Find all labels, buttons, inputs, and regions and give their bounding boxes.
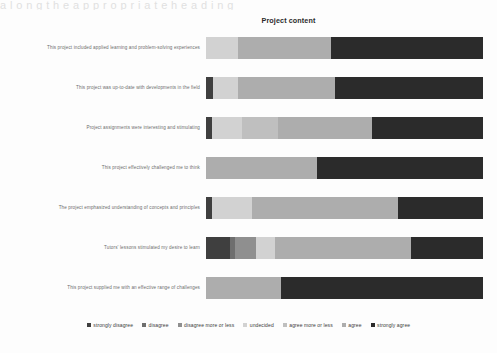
legend-swatch-icon bbox=[142, 323, 146, 327]
chart-row: This project effectively challenged me t… bbox=[0, 156, 497, 180]
bar-segment[interactable] bbox=[213, 77, 238, 99]
bar-segment[interactable] bbox=[256, 237, 275, 259]
chart-row: This project included applied learning a… bbox=[0, 36, 497, 60]
row-label: This project supplied me with an effecti… bbox=[0, 285, 206, 291]
legend-item[interactable]: strongly disagree bbox=[87, 322, 133, 328]
cropped-header-artifact: a l o n g t h e a p p r o p r i a t e h … bbox=[0, 0, 497, 10]
chart-row: Project assignments were interesting and… bbox=[0, 116, 497, 140]
chart-title: Project content bbox=[0, 16, 497, 25]
bar-segment[interactable] bbox=[206, 277, 281, 299]
legend-label: strongly agree bbox=[377, 322, 410, 328]
bar-segment[interactable] bbox=[212, 197, 252, 219]
row-label: This project was up-to-date with develop… bbox=[0, 85, 206, 91]
legend-item[interactable]: agree bbox=[342, 322, 362, 328]
chart-row: Tutors' lessons stimulated my desire to … bbox=[0, 236, 497, 260]
row-label: Tutors' lessons stimulated my desire to … bbox=[0, 245, 206, 251]
stacked-bar[interactable] bbox=[206, 77, 483, 99]
bar-segment[interactable] bbox=[335, 77, 483, 99]
legend-label: disagree more or less bbox=[184, 322, 234, 328]
legend-swatch-icon bbox=[178, 323, 182, 327]
legend-label: disagree bbox=[149, 322, 169, 328]
legend-label: agree bbox=[348, 322, 361, 328]
legend-item[interactable]: undecided bbox=[243, 322, 273, 328]
legend-swatch-icon bbox=[243, 323, 247, 327]
legend-item[interactable]: disagree bbox=[142, 322, 168, 328]
legend-swatch-icon bbox=[371, 323, 375, 327]
legend-swatch-icon bbox=[87, 323, 91, 327]
bar-segment[interactable] bbox=[372, 117, 483, 139]
plot-area: This project included applied learning a… bbox=[0, 34, 497, 314]
legend-swatch-icon bbox=[283, 323, 287, 327]
bar-segment[interactable] bbox=[242, 117, 278, 139]
stacked-bar[interactable] bbox=[206, 237, 483, 259]
legend-label: agree more or less bbox=[289, 322, 333, 328]
legend-item[interactable]: disagree more or less bbox=[178, 322, 235, 328]
bar-segment[interactable] bbox=[281, 277, 483, 299]
row-label: This project effectively challenged me t… bbox=[0, 165, 206, 171]
bar-segment[interactable] bbox=[238, 37, 331, 59]
stacked-bar[interactable] bbox=[206, 157, 483, 179]
bar-segment[interactable] bbox=[317, 157, 483, 179]
legend-label: undecided bbox=[250, 322, 274, 328]
bar-segment[interactable] bbox=[278, 117, 372, 139]
stacked-bar[interactable] bbox=[206, 277, 483, 299]
legend-item[interactable]: agree more or less bbox=[283, 322, 333, 328]
stacked-bar[interactable] bbox=[206, 37, 483, 59]
row-label: Project assignments were interesting and… bbox=[0, 125, 206, 131]
legend-swatch-icon bbox=[342, 323, 346, 327]
chart-legend: strongly disagreedisagreedisagree more o… bbox=[0, 322, 497, 328]
bar-segment[interactable] bbox=[206, 157, 317, 179]
legend-item[interactable]: strongly agree bbox=[371, 322, 411, 328]
stacked-bar[interactable] bbox=[206, 117, 483, 139]
chart-row: This project supplied me with an effecti… bbox=[0, 276, 497, 300]
bar-segment[interactable] bbox=[252, 197, 399, 219]
chart-row: This project was up-to-date with develop… bbox=[0, 76, 497, 100]
bar-segment[interactable] bbox=[206, 77, 213, 99]
bar-segment[interactable] bbox=[235, 237, 256, 259]
bar-segment[interactable] bbox=[212, 117, 242, 139]
bar-segment[interactable] bbox=[331, 37, 483, 59]
bar-segment[interactable] bbox=[206, 37, 238, 59]
bar-segment[interactable] bbox=[398, 197, 482, 219]
chart-row: The project emphasized understanding of … bbox=[0, 196, 497, 220]
bar-segment[interactable] bbox=[275, 237, 411, 259]
row-label: The project emphasized understanding of … bbox=[0, 205, 206, 211]
bar-segment[interactable] bbox=[238, 77, 335, 99]
bar-segment[interactable] bbox=[411, 237, 483, 259]
legend-label: strongly disagree bbox=[93, 322, 133, 328]
row-label: This project included applied learning a… bbox=[0, 45, 206, 51]
chart-page: a l o n g t h e a p p r o p r i a t e h … bbox=[0, 0, 497, 353]
stacked-bar[interactable] bbox=[206, 197, 483, 219]
bar-segment[interactable] bbox=[206, 237, 230, 259]
